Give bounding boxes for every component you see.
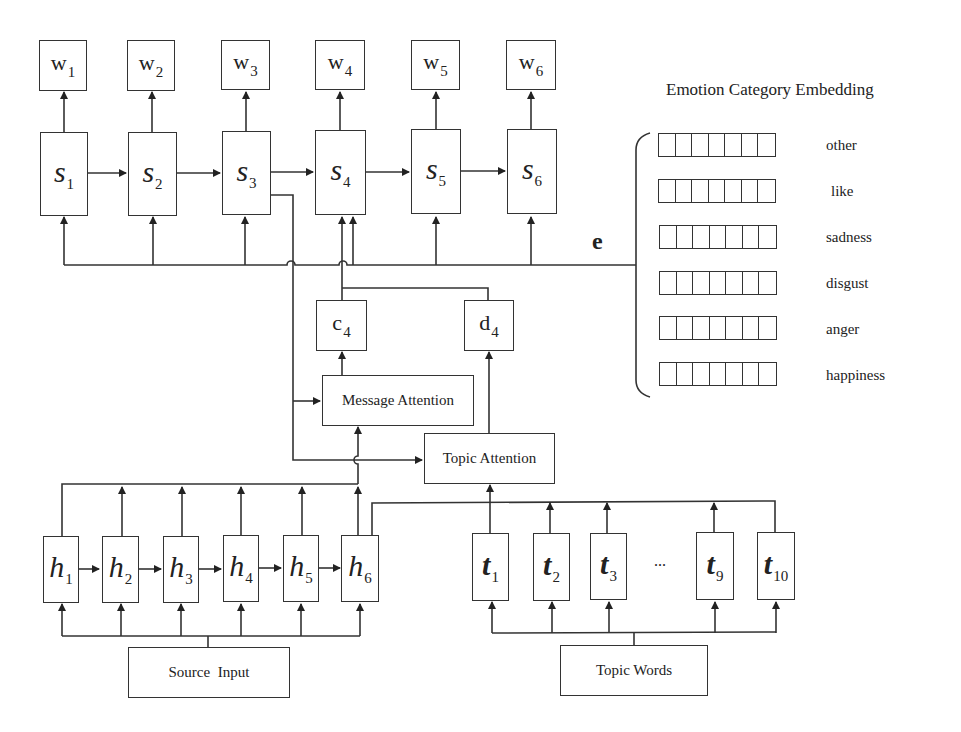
emotion-embedding-title: Emotion Category Embedding (666, 80, 874, 100)
connection-wires (0, 0, 961, 732)
encoder-state-h2: h2 (102, 536, 139, 603)
emotion-label-anger: anger (826, 321, 859, 338)
decoder-state-s3: s3 (222, 131, 271, 215)
decoder-state-s1: s1 (40, 132, 88, 216)
encoder-state-h6: h6 (341, 535, 379, 602)
output-word-w3: w3 (221, 40, 270, 90)
encoder-state-h5: h5 (283, 535, 319, 602)
context-vector-c4: c4 (316, 300, 367, 351)
topic-vector-d4: d4 (464, 300, 514, 351)
emotion-label-like: like (831, 183, 854, 200)
topic-state-t9: t9 (696, 532, 734, 600)
decoder-state-s4: s4 (315, 130, 366, 215)
encoder-state-h4: h4 (223, 535, 259, 602)
emotion-vector-label: e (592, 228, 603, 255)
embedding-row-other (658, 133, 776, 157)
output-word-w4: w4 (315, 40, 365, 90)
output-word-w1: w1 (39, 40, 87, 91)
topic-state-t10: t10 (757, 532, 795, 600)
message-attention-box: Message Attention (322, 375, 474, 426)
output-word-w2: w2 (127, 40, 175, 91)
source-input-box: Source Input (128, 647, 290, 698)
decoder-state-s2: s2 (128, 132, 177, 216)
embedding-row-anger (659, 316, 777, 340)
emotion-label-other: other (826, 137, 857, 154)
embedding-row-like (658, 179, 776, 203)
decoder-state-s6: s6 (507, 129, 557, 214)
topic-state-t3: t3 (590, 533, 627, 600)
embedding-row-disgust (659, 271, 777, 295)
emotion-label-sadness: sadness (826, 229, 872, 246)
emotion-label-happiness: happiness (826, 367, 885, 384)
topic-state-t1: t1 (472, 533, 509, 601)
topic-state-t2: t2 (533, 533, 570, 601)
topic-ellipsis: ... (654, 552, 666, 570)
topic-words-box: Topic Words (560, 645, 708, 696)
emotion-label-disgust: disgust (826, 275, 869, 292)
embedding-row-happiness (659, 362, 777, 386)
topic-attention-box: Topic Attention (424, 433, 555, 484)
embedding-row-sadness (659, 225, 777, 249)
encoder-state-h3: h3 (163, 536, 199, 603)
output-word-w6: w6 (506, 40, 556, 90)
output-word-w5: w5 (411, 40, 460, 90)
decoder-state-s5: s5 (411, 129, 461, 214)
encoder-state-h1: h1 (43, 536, 79, 603)
